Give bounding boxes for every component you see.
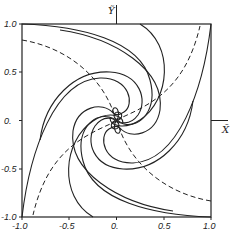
- x-axis-label: X̃: [221, 124, 230, 135]
- y-tick-label: 1.0: [4, 19, 17, 29]
- x-tick-label: -1.0: [12, 221, 28, 231]
- y-tick-label: 0.5: [4, 67, 18, 77]
- trajectory-line: [91, 101, 193, 169]
- dashed-curve: [22, 40, 116, 120]
- y-tick-label: 0.: [4, 116, 12, 126]
- y-axis-label: Ỹ: [108, 5, 116, 16]
- y-tick-label: -0.5: [1, 164, 18, 174]
- x-tick-label: -0.5: [59, 221, 76, 231]
- y-ticks: 1.0 0.5 0. -0.5 -1.0: [1, 19, 22, 222]
- x-ticks: -1.0 -0.5 0. 0.5 1.0: [12, 217, 216, 231]
- trajectory-line: [40, 72, 142, 140]
- x-tick-label: 0.: [111, 221, 119, 231]
- phase-portrait-chart: Ỹ X̃ 1.0 0.5 0. -0.5 -1.0 -1.0 -0.5 0. 0…: [0, 0, 237, 231]
- x-tick-label: 1.0: [203, 221, 216, 231]
- dashed-curve: [117, 121, 211, 201]
- trajectories: [22, 24, 211, 217]
- x-tick-label: 0.5: [158, 221, 172, 231]
